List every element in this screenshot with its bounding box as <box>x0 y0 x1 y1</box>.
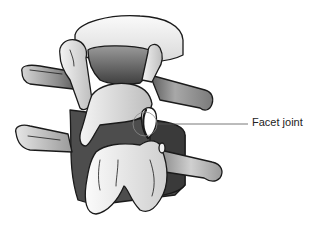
facet-joint-label: Facet joint <box>252 116 303 129</box>
upper-body-shadow <box>88 46 151 85</box>
lower-left-transverse-process <box>16 125 72 152</box>
mammillary-process <box>159 143 165 153</box>
lower-lamina-spinous-process <box>85 141 167 214</box>
upper-right-transverse-process <box>150 75 213 110</box>
